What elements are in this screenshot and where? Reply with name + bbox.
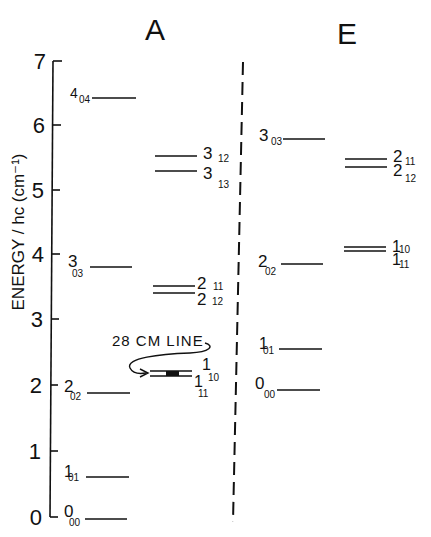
- svg-text:11: 11: [198, 388, 209, 399]
- svg-text:2: 2: [393, 161, 402, 180]
- svg-text:01: 01: [263, 345, 275, 356]
- svg-text:3: 3: [203, 164, 212, 183]
- svg-text:10: 10: [208, 372, 220, 383]
- divider-dashed-line: [233, 62, 243, 522]
- svg-text:12: 12: [218, 153, 230, 164]
- svg-text:2: 2: [197, 290, 206, 309]
- svg-text:12: 12: [405, 173, 417, 184]
- svg-text:3: 3: [31, 307, 43, 332]
- svg-text:13: 13: [218, 179, 230, 190]
- svg-text:00: 00: [69, 517, 81, 528]
- svg-text:03: 03: [72, 268, 84, 279]
- svg-text:11: 11: [213, 281, 224, 292]
- svg-text:00: 00: [264, 389, 276, 400]
- column-header-e: E: [337, 17, 357, 50]
- svg-text:12: 12: [212, 296, 224, 307]
- svg-text:5: 5: [32, 178, 44, 203]
- svg-text:02: 02: [265, 266, 277, 277]
- svg-text:04: 04: [79, 94, 91, 105]
- column-header-a: A: [145, 13, 165, 46]
- energy-level-diagram: A E 7 6 5 4 3 2 1 0 ENERGY / hc (cm⁻¹): [0, 0, 431, 537]
- transition-bar: [166, 371, 179, 376]
- svg-text:03: 03: [271, 136, 283, 147]
- svg-text:01: 01: [68, 472, 80, 483]
- y-axis-label: ENERGY / hc (cm⁻¹): [9, 154, 28, 311]
- column-a-levels: [85, 98, 197, 519]
- svg-text:7: 7: [34, 49, 46, 74]
- svg-text:11: 11: [405, 156, 416, 167]
- svg-text:4: 4: [70, 85, 78, 101]
- svg-text:2: 2: [30, 373, 42, 398]
- column-e-level-labels: 3 03 2 11 2 12 1 10 1 11 2 02 1 01 0 00: [255, 126, 417, 400]
- y-axis: [50, 61, 62, 517]
- svg-text:11: 11: [399, 259, 410, 270]
- svg-text:3: 3: [259, 126, 268, 145]
- column-a-level-labels: 4 04 3 12 3 13 3 03 2 11 2 12 1 10 1 11 …: [64, 85, 230, 528]
- svg-text:0: 0: [30, 505, 42, 530]
- svg-text:1: 1: [202, 356, 211, 373]
- annotation-28cm-line: 28 CM LINE: [112, 332, 204, 349]
- svg-text:4: 4: [32, 242, 44, 267]
- svg-text:02: 02: [70, 391, 82, 402]
- column-e-levels: [277, 139, 387, 390]
- svg-text:1: 1: [29, 439, 41, 464]
- y-tick-labels: 7 6 5 4 3 2 1 0: [29, 49, 46, 530]
- svg-text:3: 3: [203, 144, 212, 163]
- svg-text:6: 6: [33, 113, 45, 138]
